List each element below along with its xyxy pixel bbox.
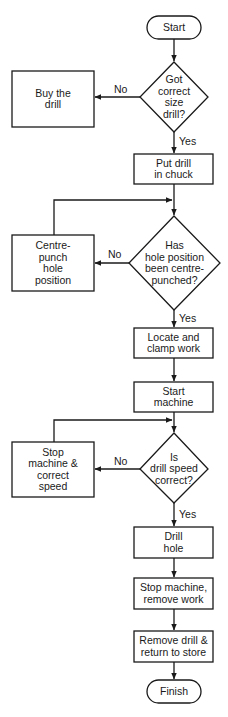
edge-label-yes-2: Yes [179, 313, 196, 324]
label-correct-size-drill: Got correct size drill? [140, 72, 208, 122]
label-start: Start [147, 16, 201, 39]
label-stop-correct-speed: Stop machine & correct speed [12, 442, 94, 497]
label-drill-speed: Is drill speed correct? [140, 450, 208, 488]
label-centre-punch: Centre- punch hole position [12, 235, 94, 291]
edge-label-no-3: No [114, 456, 127, 467]
label-drill-hole: Drill hole [134, 527, 213, 558]
edge-label-no-2: No [108, 249, 121, 260]
label-centre-punched: Has hole position been centre- punched? [129, 238, 220, 288]
label-finish: Finish [147, 680, 201, 703]
label-remove-drill: Remove drill & return to store [134, 631, 213, 662]
label-locate-clamp: Locate and clamp work [134, 328, 213, 358]
label-start-machine: Start machine [134, 382, 213, 412]
edge-label-no-1: No [114, 84, 127, 95]
label-buy-drill: Buy the drill [12, 71, 94, 127]
label-put-drill-in-chuck: Put drill in chuck [134, 154, 213, 184]
label-stop-remove-work: Stop machine, remove work [134, 578, 213, 609]
edge-label-yes-3: Yes [179, 509, 196, 520]
edge-label-yes-1: Yes [179, 136, 196, 147]
